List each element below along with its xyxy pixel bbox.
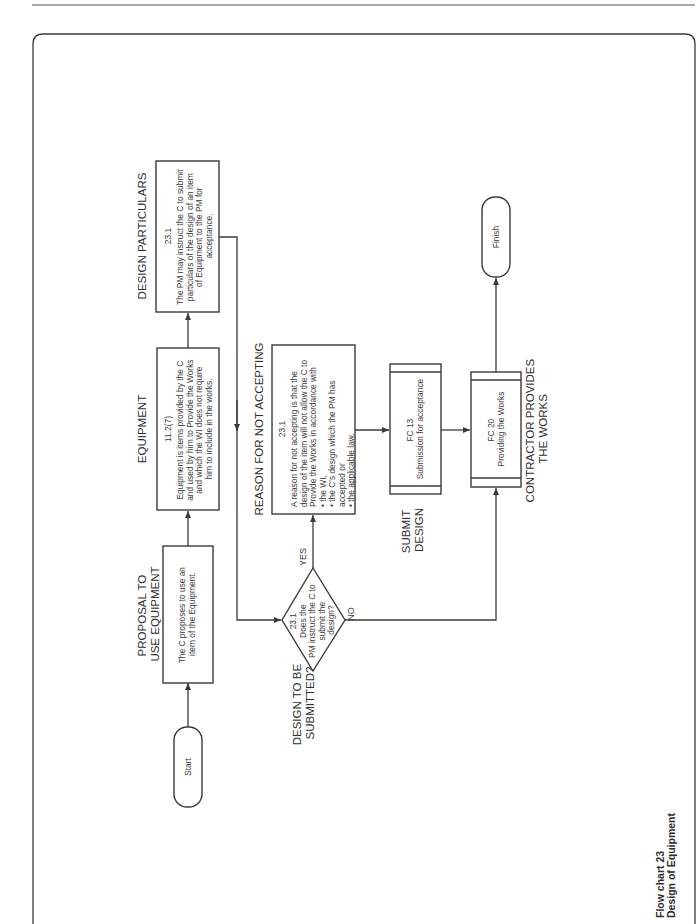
- svg-text:Equipment is items provided by: Equipment is items provided by the C and…: [175, 357, 214, 501]
- svg-text:CONTRACTOR PROVIDES THE: CONTRACTOR PROVIDES THE WORKS: [524, 356, 549, 503]
- design-particulars-process-box: DESIGN PARTICULARS 23.1 The PM may instr…: [136, 161, 219, 312]
- page-frame: [33, 34, 695, 924]
- no-label: NO: [346, 607, 356, 621]
- reason-process-box: REASON FOR NOT ACCEPTING 23.1 A reason f…: [253, 342, 356, 515]
- svg-text:DESIGN PARTICULARS: DESIGN PARTICULARS: [136, 172, 148, 299]
- start-terminator: Start: [174, 727, 202, 807]
- svg-text:23.1: 23.1: [277, 421, 287, 438]
- svg-text:DESIGN TO BE SUBMITTED?: DESIGN TO BE SUBMITTED?: [291, 661, 316, 746]
- svg-text:EQUIPMENT: EQUIPMENT: [136, 395, 148, 463]
- equipment-process-box: EQUIPMENT 11.2(7) Equipment is items pro…: [136, 348, 219, 510]
- fc13-predefined-process: SUBMIT DESIGN FC 13 Submission for accep…: [390, 364, 441, 553]
- flowchart-caption: Flow chart 23 Design of Equipment: [654, 812, 677, 918]
- flowchart-canvas: Start PROPOSAL TO USE EQUIPMENT The C pr…: [0, 0, 699, 924]
- yes-label: YES: [298, 548, 308, 566]
- svg-text:11.2(7): 11.2(7): [163, 416, 173, 442]
- proposal-process-box: PROPOSAL TO USE EQUIPMENT The C proposes…: [136, 546, 213, 683]
- fc20-predefined-process: CONTRACTOR PROVIDES THE WORKS FC 20 Prov…: [471, 356, 549, 503]
- decision-diamond: DESIGN TO BE SUBMITTED? 23.1 Does the PM…: [282, 548, 356, 745]
- svg-text:SUBMIT DESIGN: SUBMIT DESIGN: [400, 507, 425, 553]
- svg-text:23.1: 23.1: [163, 228, 173, 245]
- finish-terminator: Finish: [482, 197, 510, 277]
- svg-text:REASON FOR NOT ACCEPTING: REASON FOR NOT ACCEPTING: [253, 342, 265, 515]
- svg-text:PROPOSAL TO USE EQUIPMEN: PROPOSAL TO USE EQUIPMENT: [136, 566, 161, 661]
- svg-text:Start: Start: [183, 757, 193, 775]
- svg-text:The C proposes to use an: The C proposes to use an item of the Equ…: [177, 565, 197, 664]
- svg-text:Flow chart 23 Design of: Flow chart 23 Design of Equipment: [654, 812, 677, 918]
- svg-text:Finish: Finish: [491, 225, 501, 248]
- arrow-no-to-fc20: [345, 488, 496, 620]
